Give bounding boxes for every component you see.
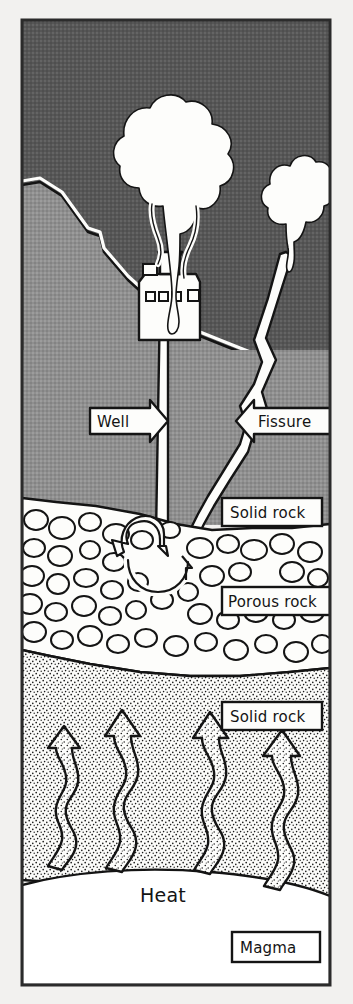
plant-window bbox=[146, 292, 155, 301]
label-porous-rock-text: Porous rock bbox=[228, 593, 317, 611]
plant-window bbox=[159, 292, 168, 301]
plant-roof-vent bbox=[143, 264, 157, 275]
label-heat-text: Heat bbox=[140, 884, 186, 906]
diagram-stage: Well Fissure Solid rock Porous rock Soli… bbox=[0, 0, 353, 1004]
geothermal-diagram: Well Fissure Solid rock Porous rock Soli… bbox=[0, 0, 353, 1004]
label-solid-rock-upper: Solid rock bbox=[222, 498, 322, 526]
plant-window bbox=[188, 290, 199, 301]
label-solid-rock-lower: Solid rock bbox=[222, 702, 322, 730]
label-well-text: Well bbox=[97, 413, 129, 431]
label-magma-text: Magma bbox=[240, 939, 296, 957]
label-fissure-text: Fissure bbox=[258, 413, 311, 431]
label-solid-rock-upper-text: Solid rock bbox=[230, 504, 305, 522]
label-magma: Magma bbox=[232, 932, 320, 962]
label-porous-rock: Porous rock bbox=[222, 587, 330, 615]
label-solid-rock-lower-text: Solid rock bbox=[230, 708, 305, 726]
